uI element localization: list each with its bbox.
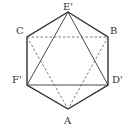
- label-b: B: [110, 25, 117, 36]
- hexagon-diagram: E' C B F' D' A: [0, 0, 130, 132]
- label-f-prime: F': [12, 74, 22, 85]
- edge-e-f: [27, 12, 68, 85]
- edge-e-d: [68, 12, 108, 85]
- label-a: A: [63, 115, 72, 126]
- hexagon-outline: [27, 12, 108, 109]
- label-c: C: [16, 25, 24, 36]
- diagram-canvas: E' C B F' D' A: [0, 0, 130, 132]
- label-e-prime: E': [63, 1, 73, 12]
- label-d-prime: D': [112, 74, 123, 85]
